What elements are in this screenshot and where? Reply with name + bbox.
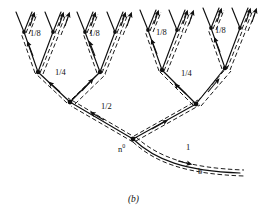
- dashed-d2LL-d3b-a: [40, 33, 56, 73]
- node-d3d: [113, 30, 117, 34]
- arrow-leaf: [252, 10, 256, 22]
- edge-d2RR-d3h: [225, 28, 240, 68]
- node-d1L: [68, 100, 73, 105]
- arrow-leaf: [65, 14, 69, 26]
- arrow-d1R-right: [208, 80, 218, 92]
- arrow-quarter-left: [50, 83, 60, 92]
- arrow-eighth-1: [28, 43, 33, 56]
- arrow-eighth-2: [90, 43, 95, 56]
- dashed-root-right-a: [134, 100, 198, 136]
- node-d3a: [22, 30, 26, 34]
- node-d2LL: [36, 70, 40, 74]
- leaf-stub: [107, 12, 115, 32]
- node-d2RR: [223, 66, 227, 70]
- dashed-d1L-d2LR: [72, 69, 103, 99]
- weight-label-quarter-left: 1/4: [55, 68, 66, 77]
- leaf-stub: [77, 12, 85, 32]
- edge-d2LR-d3d: [100, 32, 115, 72]
- node-root: [131, 137, 136, 142]
- dashed-d2RR-d3h-a: [227, 29, 243, 69]
- dashed-d2RR-d3h-b: [230, 30, 246, 70]
- weight-label-eighth-1: 1/8: [30, 29, 41, 38]
- dashed-d2RL-d3e: [145, 31, 159, 71]
- dashed-root-left-a: [68, 98, 131, 135]
- dashed-d2LR-d3c: [83, 33, 97, 73]
- dashed-d2LL-d3a: [21, 33, 35, 73]
- dashed-d1L-d2LL: [35, 73, 67, 103]
- node-d3c: [83, 30, 87, 34]
- leaf-stub: [45, 12, 53, 32]
- dashed-d2RL-d3f-b: [167, 32, 183, 72]
- leaf-stub: [16, 12, 24, 32]
- weight-label-one: 1: [186, 143, 190, 152]
- node-d3b: [51, 30, 55, 34]
- root-node-label: n0: [118, 143, 125, 153]
- root-node-label-superscript: 0: [122, 143, 125, 149]
- figure-caption: (b): [0, 194, 267, 204]
- node-d3g: [209, 26, 213, 30]
- dashed-root-right-b: [136, 105, 200, 141]
- dashed-d2LR-d3d-b: [105, 34, 121, 74]
- arrow-b: [178, 161, 190, 164]
- node-d3h: [238, 26, 242, 30]
- dashed-d2LR-d3d-a: [102, 33, 118, 73]
- leaf-stub: [203, 8, 211, 28]
- arrow-leaf: [189, 12, 193, 24]
- leaf-stub: [169, 10, 177, 30]
- arrow-eighth-3: [152, 41, 157, 54]
- node-d1R: [194, 102, 199, 107]
- weight-label-eighth-4: 1/8: [215, 26, 226, 35]
- edge-d2LL-d3b: [38, 32, 53, 72]
- weight-label-eighth-3: 1/8: [156, 28, 167, 37]
- node-d2RL: [160, 68, 164, 72]
- dashed-root-left-b: [71, 106, 133, 142]
- leaf-stub: [232, 8, 240, 28]
- figure-container: 1/8 1/8 1/8 1/8 1/4 1/4 1/2 1 n0 b (b): [0, 0, 267, 217]
- leaf-stub: [140, 10, 148, 30]
- node-d3f: [175, 28, 179, 32]
- dashed-d1L-d2LR-b: [75, 74, 106, 104]
- arrow-leaf: [127, 14, 131, 26]
- node-d3e: [146, 28, 150, 32]
- arrow-eighth-4: [215, 39, 220, 52]
- dashed-d2RR-d3g: [208, 29, 222, 69]
- node-d2LR: [98, 70, 102, 74]
- tree-solid-edges: [16, 8, 248, 173]
- weight-label-half: 1/2: [101, 102, 112, 111]
- dashed-d2RL-d3f-a: [164, 31, 180, 71]
- weight-label-eighth-2: 1/8: [89, 29, 100, 38]
- dashed-d1R-d2RR-b: [201, 71, 231, 106]
- edge-d2LR-d3c: [85, 32, 100, 72]
- leaf-branch-label: b: [198, 167, 202, 176]
- weight-label-quarter-right: 1/4: [181, 69, 192, 78]
